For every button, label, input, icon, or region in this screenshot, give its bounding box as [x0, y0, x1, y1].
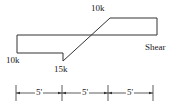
- shear-diagram: 10k Shear 10k 15k 5' 5' 5': [0, 0, 183, 110]
- segment-length-label-3: 5': [126, 88, 134, 97]
- max-shear-label: 10k: [91, 4, 105, 13]
- shear-diagram-svg: [0, 0, 183, 110]
- min-shear-label: 15k: [54, 65, 68, 74]
- shear-curve: [17, 18, 157, 61]
- segment-length-label-2: 5': [81, 88, 89, 97]
- left-shear-label: 10k: [6, 56, 20, 65]
- segment-length-label-1: 5': [35, 88, 43, 97]
- diagram-title-label: Shear: [145, 43, 166, 52]
